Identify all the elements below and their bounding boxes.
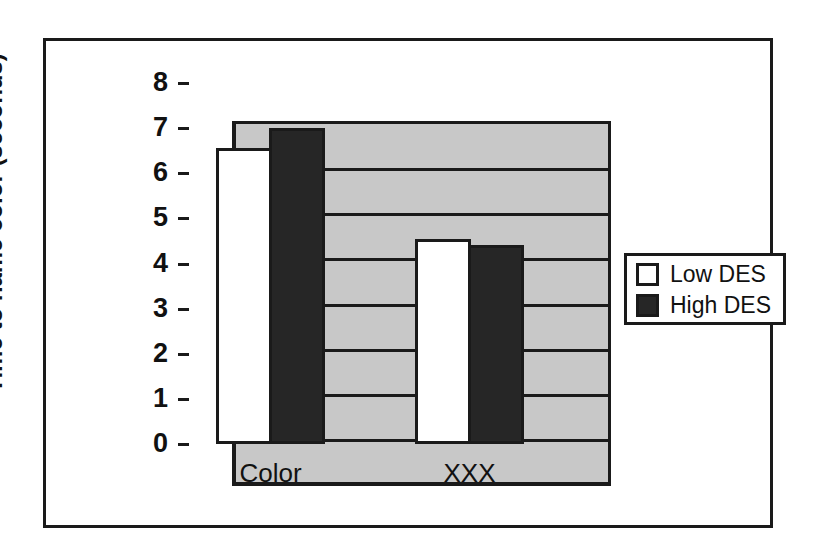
y-axis-tick-label: 4 [142, 250, 168, 277]
figure-page: 012345678 Time to name color (seconds) C… [0, 0, 815, 560]
y-axis-tick [178, 353, 189, 356]
y-axis-tick-label: 6 [142, 159, 168, 186]
legend-entry-high-des: High DES [636, 294, 771, 317]
y-axis-tick-label: 8 [142, 69, 168, 96]
x-axis-label-color: Color [191, 458, 351, 489]
y-axis-tick [178, 308, 189, 311]
y-axis-tick [178, 82, 189, 85]
y-axis-title: Time to name color (seconds) [0, 13, 8, 433]
y-axis-tick-label: 0 [142, 430, 168, 457]
legend-label-high-des: High DES [670, 294, 771, 317]
x-axis-label-xxx: XXX [390, 458, 550, 489]
bar-color-high-des [269, 128, 325, 444]
y-axis-tick [178, 398, 189, 401]
legend-label-low-des: Low DES [670, 263, 766, 286]
y-axis-tick-label: 1 [142, 385, 168, 412]
y-axis-tick [178, 263, 189, 266]
y-axis-tick-label: 2 [142, 340, 168, 367]
y-axis-tick [178, 127, 189, 130]
bar-xxx-low-des [415, 239, 471, 444]
legend: Low DES High DES [624, 253, 786, 325]
y-axis-tick-label: 7 [142, 114, 168, 141]
legend-entry-low-des: Low DES [636, 263, 766, 286]
figure-frame: 012345678 Time to name color (seconds) C… [43, 38, 773, 528]
bar-color-low-des [216, 148, 272, 444]
black-square-swatch [636, 294, 659, 317]
y-axis-tick-label: 3 [142, 295, 168, 322]
y-axis-tick [178, 443, 189, 446]
y-axis-tick-label: 5 [142, 204, 168, 231]
y-axis-tick [178, 172, 189, 175]
white-square-swatch [636, 263, 659, 286]
y-axis-tick [178, 217, 189, 220]
bar-xxx-high-des [468, 245, 524, 444]
